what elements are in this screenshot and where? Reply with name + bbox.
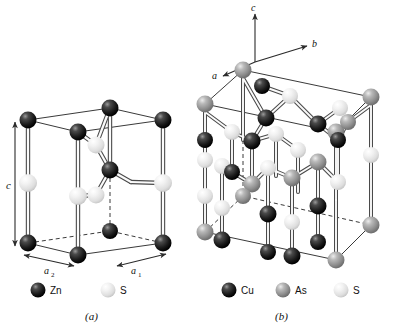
atom-zn [102,162,119,179]
atom-cu [258,110,275,127]
atom-s [332,100,348,116]
atom-as [235,188,251,204]
atom-zn [20,112,37,129]
atom-as [340,114,356,130]
atom-as [284,170,301,187]
atom-cu [224,164,240,180]
atom-as [197,224,214,241]
legend-label-zn: Zn [50,285,62,296]
atom-s [197,188,213,204]
atom-cu [244,133,261,150]
atom-cu [330,132,346,148]
atom-s [330,174,346,190]
atom-s [88,187,105,204]
legend-label-s: S [120,285,127,296]
atom-cu [260,206,277,223]
atom-s [224,124,240,140]
atom-zn [155,235,172,252]
legend-label-as: As [295,285,307,296]
atom-as [328,252,345,269]
panel-a-caption: (a) [85,310,98,323]
atom-zn [102,223,118,239]
atom-zn [102,100,119,117]
crystal-structure-figure: c a 2 a 1 Zn S (a) c b [0,0,395,327]
legend-swatch-s [334,283,349,298]
atom-cu [254,78,270,94]
atom-zn [20,235,37,252]
figure-canvas: c a 2 a 1 Zn S (a) c b [0,0,395,327]
axis-label-c: c [251,2,256,13]
legend-label-s: S [353,285,360,296]
atom-s [69,187,87,205]
legend-label-cu: Cu [241,285,254,296]
legend-swatch-as [276,283,291,298]
atom-as [363,89,380,106]
atom-s [268,126,284,142]
axis-label-a1-subscript: 1 [138,271,142,279]
atom-s [260,160,276,176]
axis-label-a2-subscript: 2 [51,271,55,279]
atom-s [284,214,300,230]
atom-s [290,142,306,158]
atom-zn [70,247,87,264]
atom-s [214,200,230,216]
atom-cu [197,132,213,148]
atom-cu [260,244,276,260]
axis-label-b: b [312,38,317,49]
atom-as [363,217,380,234]
atom-zn [155,112,172,129]
atom-as [197,96,214,113]
axis-label-a1: a [131,265,136,276]
axis-label-c: c [6,179,11,191]
panel-b-caption: (b) [275,310,288,323]
atom-cu [310,234,326,250]
legend-swatch-zn [31,283,46,298]
atom-cu [310,198,327,215]
atom-s [88,137,105,154]
atom-cu [214,232,231,249]
atom-as [310,154,327,171]
legend-swatch-s [101,283,116,298]
axis-label-a: a [212,70,217,81]
atom-zn [70,124,87,141]
legend-swatch-cu [222,283,237,298]
axis-label-a2: a [44,265,49,276]
atom-cu [284,248,301,265]
atom-cu [310,116,327,133]
atom-as [235,62,252,79]
atom-s [282,88,298,104]
atom-s [197,152,213,168]
atom-s [19,174,37,192]
atom-s [154,174,172,192]
atom-s [363,147,379,163]
